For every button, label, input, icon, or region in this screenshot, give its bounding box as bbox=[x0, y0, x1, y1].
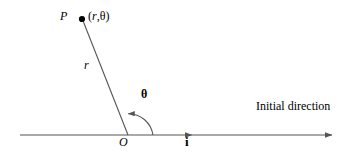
initial-direction-label: Initial direction bbox=[256, 100, 330, 112]
angle-arc bbox=[128, 114, 153, 135]
coordinates-label: (r,θ) bbox=[88, 10, 109, 22]
figure-canvas bbox=[0, 0, 352, 155]
point-p-marker bbox=[79, 16, 85, 22]
unit-vector-label: i bbox=[185, 135, 189, 148]
polar-coordinate-figure: P (r,θ) r θ O i Initial direction bbox=[0, 0, 352, 155]
coord-close-paren: ) bbox=[105, 9, 109, 23]
radius-line bbox=[84, 22, 129, 135]
point-p-label: P bbox=[60, 10, 67, 22]
radius-label: r bbox=[84, 59, 89, 71]
origin-label: O bbox=[119, 136, 128, 148]
angle-label: θ bbox=[141, 88, 147, 100]
